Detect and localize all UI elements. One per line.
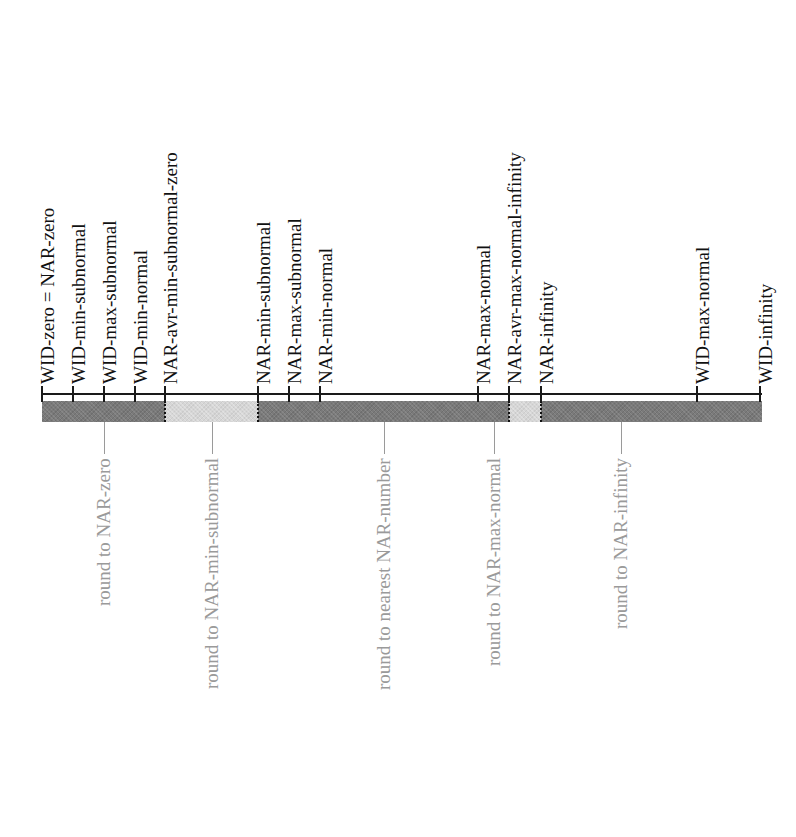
tick-mark <box>477 386 479 402</box>
tick-label: WID-max-subnormal <box>100 220 119 384</box>
rounding-connector <box>104 422 105 454</box>
tick-label: NAR-avr-max-normal-infinity <box>505 152 524 384</box>
segment-boundary <box>508 401 510 422</box>
rounding-label: round to NAR-zero <box>94 458 113 606</box>
segment-boundary <box>164 401 166 422</box>
tick-mark <box>508 386 510 402</box>
tick-label: WID-infinity <box>756 284 775 384</box>
tick-label: NAR-avr-min-subnormal-zero <box>161 152 180 384</box>
tick-label: WID-zero = NAR-zero <box>38 208 57 384</box>
rounding-diagram: WID-zero = NAR-zeroWID-min-subnormalWID-… <box>0 0 796 837</box>
segment-boundary <box>540 401 542 422</box>
tick-mark <box>164 386 166 402</box>
rounding-label: round to NAR-infinity <box>611 458 630 629</box>
tick-mark <box>540 386 542 402</box>
tick-mark <box>319 386 321 402</box>
tick-label: WID-min-subnormal <box>69 224 88 384</box>
tick-mark <box>41 386 43 402</box>
tick-mark <box>103 386 105 402</box>
rounding-label: round to NAR-max-normal <box>484 458 503 666</box>
tick-label: WID-max-normal <box>693 247 712 384</box>
rounding-connector <box>621 422 622 454</box>
rounding-label: round to NAR-min-subnormal <box>202 458 221 689</box>
tick-mark <box>759 386 761 402</box>
tick-label: WID-min-normal <box>131 250 150 384</box>
bar-segment-dark <box>258 401 509 422</box>
bar-segment-dark <box>541 401 762 422</box>
number-line <box>42 393 762 395</box>
tick-mark <box>288 386 290 402</box>
tick-label: NAR-max-subnormal <box>285 218 304 384</box>
tick-mark <box>696 386 698 402</box>
tick-mark <box>257 386 259 402</box>
rounding-label: round to nearest NAR-number <box>374 458 393 690</box>
tick-mark <box>72 386 74 402</box>
bar-segment-light <box>509 401 541 422</box>
tick-label: NAR-max-normal <box>474 245 493 384</box>
rounding-connector <box>384 422 385 454</box>
bar-segment-dark <box>42 401 165 422</box>
tick-label: NAR-min-subnormal <box>254 221 273 384</box>
bar-segment-light <box>165 401 258 422</box>
rounding-connector <box>494 422 495 454</box>
segment-boundary <box>257 401 259 422</box>
tick-label: NAR-min-normal <box>316 248 335 384</box>
rounding-connector <box>212 422 213 454</box>
tick-mark <box>134 386 136 402</box>
tick-label: NAR-infinity <box>537 282 556 384</box>
